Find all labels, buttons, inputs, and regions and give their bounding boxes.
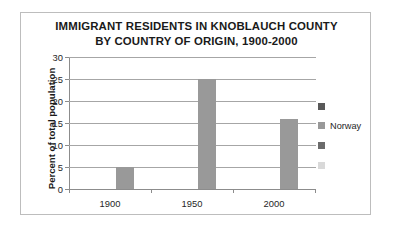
x-axis-line xyxy=(69,189,316,190)
legend-item-norway[interactable]: Norway xyxy=(318,120,361,131)
gridline-15 xyxy=(69,123,316,124)
y-tick-5 xyxy=(65,167,69,168)
x-label-1900: 1900 xyxy=(100,198,121,209)
chart-title: IMMIGRANT RESIDENTS IN KNOBLAUCH COUNTY … xyxy=(21,19,372,49)
gridline-30 xyxy=(69,57,316,58)
x-label-2000: 2000 xyxy=(264,198,285,209)
gridline-20 xyxy=(69,101,316,102)
legend-swatch-icon-3 xyxy=(318,142,325,149)
y-tick-label-5: 5 xyxy=(58,162,63,173)
y-tick-25 xyxy=(65,79,69,80)
y-tick-20 xyxy=(65,101,69,102)
y-tick-label-0: 0 xyxy=(58,184,63,195)
y-tick-10 xyxy=(65,145,69,146)
x-label-1950: 1950 xyxy=(182,198,203,209)
legend-item-1[interactable] xyxy=(318,101,330,112)
bar-1950[interactable] xyxy=(198,79,216,189)
gridline-25 xyxy=(69,79,316,80)
y-tick-label-25: 25 xyxy=(53,74,63,85)
gridline-10 xyxy=(69,145,316,146)
y-tick-label-20: 20 xyxy=(53,96,63,107)
page-canvas: IMMIGRANT RESIDENTS IN KNOBLAUCH COUNTY … xyxy=(0,0,394,230)
y-tick-label-10: 10 xyxy=(53,140,63,151)
x-tick-2 xyxy=(233,189,234,193)
legend-item-3[interactable] xyxy=(318,140,330,151)
legend-swatch-icon-4 xyxy=(318,162,325,169)
y-tick-15 xyxy=(65,123,69,124)
chart-figure: IMMIGRANT RESIDENTS IN KNOBLAUCH COUNTY … xyxy=(20,12,371,215)
y-tick-30 xyxy=(65,57,69,58)
x-tick-start xyxy=(69,189,70,193)
legend-label-norway: Norway xyxy=(330,121,361,131)
x-tick-end xyxy=(315,189,316,193)
legend-item-4[interactable] xyxy=(318,160,330,171)
x-tick-1 xyxy=(151,189,152,193)
plot-area: 30 25 20 15 10 5 0 1900 1950 2000 xyxy=(69,57,316,189)
chart-title-line-2: BY COUNTRY OF ORIGIN, 1900-2000 xyxy=(21,34,372,49)
gridline-5 xyxy=(69,167,316,168)
bar-2000[interactable] xyxy=(280,119,298,189)
chart-title-line-1: IMMIGRANT RESIDENTS IN KNOBLAUCH COUNTY xyxy=(21,19,372,34)
bar-1900[interactable] xyxy=(116,167,134,189)
legend-swatch-icon-1 xyxy=(318,103,325,110)
y-tick-label-30: 30 xyxy=(53,52,63,63)
y-tick-label-15: 15 xyxy=(53,118,63,129)
legend-swatch-icon-norway xyxy=(318,122,325,129)
